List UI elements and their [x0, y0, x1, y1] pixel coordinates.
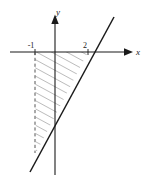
math-figure: -1 2 x y: [0, 0, 152, 183]
x-axis-label: x: [135, 47, 140, 57]
hatched-triangle-region: [35, 52, 88, 153]
hatch-fill: [35, 52, 88, 153]
tick-label-minus-one: -1: [28, 41, 35, 50]
coordinate-plane-svg: -1 2 x y: [0, 0, 152, 183]
tick-label-two: 2: [83, 41, 87, 50]
x-axis-arrow-icon: [124, 48, 133, 56]
y-axis-label: y: [55, 7, 60, 17]
